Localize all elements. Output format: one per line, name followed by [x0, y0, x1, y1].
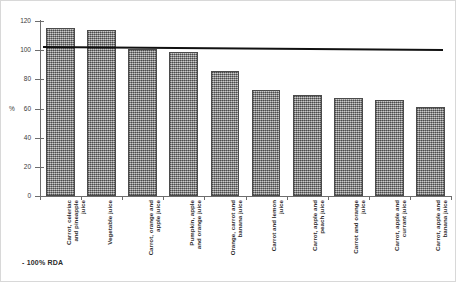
- y-tick-0: 0: [1, 196, 40, 197]
- bar: [252, 90, 281, 196]
- bar: [334, 98, 363, 196]
- bar: [211, 71, 240, 196]
- y-tick-40: 40: [1, 138, 40, 139]
- x-axis-category-label: Carrot, celeriacand pineapplejuice: [65, 200, 77, 264]
- y-tick-100: 100: [1, 50, 40, 51]
- x-axis-category-label: Vegetable juice: [106, 200, 118, 264]
- bar: [46, 28, 75, 196]
- y-tick-120: 120: [1, 21, 40, 22]
- bar: [169, 52, 198, 196]
- x-axis-category-label: Carrot, apple andbanana juice: [434, 200, 446, 264]
- y-axis-ticks: 120 100 80 60 40 20 0: [1, 1, 40, 283]
- x-axis-category-label: Carrot and orangejuice: [352, 200, 364, 264]
- bar: [293, 95, 322, 196]
- x-axis-category-label: Orange, carrot andbanana juice: [229, 200, 241, 264]
- y-tick-60: 60: [1, 109, 40, 110]
- y-tick-20: 20: [1, 167, 40, 168]
- y-tick-label: 100: [20, 46, 31, 53]
- x-axis-labels: Carrot, celeriacand pineapplejuiceVegeta…: [40, 200, 451, 270]
- x-axis-category-label: Carrot, apple andpeach juice: [311, 200, 323, 264]
- y-tick-label: 0: [27, 192, 31, 199]
- y-tick-label: 80: [24, 75, 31, 82]
- x-axis-category-label: Pumpkin, appleand orange juice: [188, 200, 200, 264]
- bar: [128, 49, 157, 196]
- x-axis-category-label: Carrot and lemonjuice: [270, 200, 282, 264]
- y-tick-label: 120: [20, 17, 31, 24]
- bar: [375, 100, 404, 196]
- y-tick-label: 40: [24, 134, 31, 141]
- y-axis-title: %: [9, 105, 15, 112]
- y-tick-label: 60: [24, 105, 31, 112]
- x-tick-mark: [451, 196, 452, 200]
- chart-frame: 120 100 80 60 40 20 0 %: [0, 0, 456, 282]
- x-axis-category-label: Carrot, orange andapple juice: [147, 200, 159, 264]
- x-axis-category-label: Carrot, apple andcurrant juice: [393, 200, 405, 264]
- bar: [87, 30, 116, 196]
- legend-100-rda: - 100% RDA: [22, 259, 63, 266]
- y-tick-80: 80: [1, 79, 40, 80]
- bar: [416, 107, 445, 196]
- y-tick-label: 20: [24, 163, 31, 170]
